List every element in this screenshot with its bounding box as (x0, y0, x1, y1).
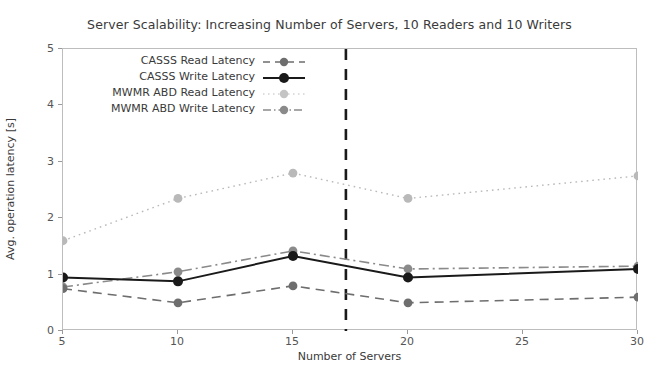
legend-item-mwmr-read: MWMR ABD Read Latency (81, 85, 307, 101)
chart-legend: CASSS Read Latency CASSS Write Latency M… (77, 49, 313, 121)
series-mwmr-abd-read-latency (63, 169, 638, 245)
y-tick-label: 3 (47, 154, 54, 167)
data-point-marker (63, 272, 68, 282)
legend-label: CASSS Write Latency (139, 69, 255, 85)
data-point-marker (174, 267, 183, 276)
legend-swatch-mwmr-write-icon (261, 102, 307, 116)
y-tick-label: 5 (47, 42, 54, 55)
data-point-marker (404, 298, 413, 307)
series-line (63, 286, 638, 303)
series-line (63, 251, 638, 287)
data-point-marker (174, 298, 183, 307)
legend-swatch-casss-write-icon (261, 70, 307, 84)
data-point-marker (289, 281, 298, 290)
y-tick-label: 0 (47, 324, 54, 337)
data-point-marker (404, 265, 413, 274)
legend-label: MWMR ABD Write Latency (111, 101, 255, 117)
series-casss-read-latency (63, 281, 638, 307)
chart-figure: Server Scalability: Increasing Number of… (0, 0, 659, 371)
x-axis-label: Number of Servers (62, 350, 637, 363)
x-tick-label: 30 (630, 335, 644, 348)
series-mwmr-abd-write-latency (63, 247, 638, 292)
x-tick-label: 25 (515, 335, 529, 348)
x-tick-label: 15 (285, 335, 299, 348)
y-axis-label: Avg. operation latency [s] (4, 118, 17, 260)
x-tick-label: 20 (400, 335, 414, 348)
y-tick-label: 2 (47, 211, 54, 224)
legend-swatch-casss-read-icon (261, 54, 307, 68)
legend-label: CASSS Read Latency (141, 53, 255, 69)
y-tick-label: 1 (47, 267, 54, 280)
legend-item-mwmr-write: MWMR ABD Write Latency (81, 101, 307, 117)
data-point-marker (289, 169, 298, 178)
legend-item-casss-read: CASSS Read Latency (81, 53, 307, 69)
data-point-marker (173, 276, 183, 286)
data-point-marker (634, 172, 638, 181)
series-line (63, 173, 638, 241)
data-point-marker (174, 194, 183, 203)
legend-label: MWMR ABD Read Latency (112, 85, 255, 101)
data-point-marker (404, 194, 413, 203)
data-point-marker (403, 272, 413, 282)
y-tick-mark (58, 330, 62, 331)
data-point-marker (288, 251, 298, 261)
x-tick-label: 10 (170, 335, 184, 348)
series-casss-write-latency (63, 251, 638, 286)
series-line (63, 256, 638, 281)
data-point-marker (63, 236, 67, 245)
legend-item-casss-write: CASSS Write Latency (81, 69, 307, 85)
data-point-marker (634, 293, 638, 302)
chart-title: Server Scalability: Increasing Number of… (0, 17, 659, 32)
y-tick-label: 4 (47, 98, 54, 111)
x-tick-label: 5 (59, 335, 66, 348)
legend-swatch-mwmr-read-icon (261, 86, 307, 100)
